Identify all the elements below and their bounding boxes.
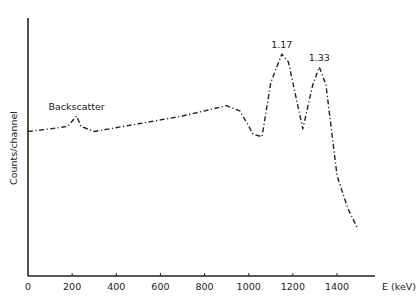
spectrum-curve — [28, 54, 357, 227]
x-tick-label: 1200 — [281, 281, 305, 292]
annotation-label: Backscatter — [48, 101, 104, 112]
y-axis-label: Counts/channel — [8, 111, 19, 185]
x-tick-label: 400 — [107, 281, 125, 292]
x-tick-label: 600 — [151, 281, 169, 292]
annotation-label: 1.33 — [309, 52, 330, 63]
x-tick-label: 0 — [25, 281, 31, 292]
axes: 0200400600800100012001400 E (keV) Counts… — [8, 18, 416, 292]
annotation-label: 1.17 — [271, 39, 292, 50]
x-axis-label: E (keV) — [382, 281, 416, 292]
x-tick-label: 800 — [196, 281, 214, 292]
x-tick-label: 1400 — [325, 281, 349, 292]
spectrum-chart: 0200400600800100012001400 E (keV) Counts… — [0, 0, 417, 304]
peak-annotations: Backscatter1.171.33 — [48, 39, 329, 112]
x-tick-label: 200 — [63, 281, 81, 292]
x-tick-label: 1000 — [237, 281, 261, 292]
